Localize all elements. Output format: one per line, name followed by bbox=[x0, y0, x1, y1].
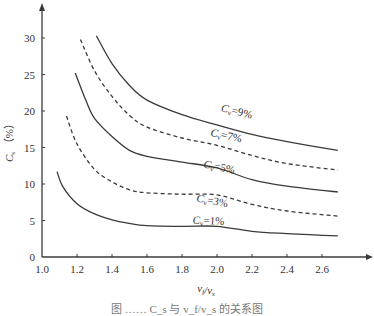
x-axis-title: vf/vs bbox=[197, 282, 215, 298]
x-tick-label: 2.2 bbox=[245, 263, 259, 275]
x-tick-label: 2.4 bbox=[280, 263, 294, 275]
y-tick-label: 0 bbox=[30, 251, 36, 263]
curve-cv7 bbox=[81, 40, 338, 171]
x-tick-label: 1.6 bbox=[140, 263, 154, 275]
curve-label: Cv=9% bbox=[220, 101, 254, 122]
y-tick-label: 15 bbox=[24, 142, 36, 154]
y-tick-label: 20 bbox=[24, 105, 36, 117]
x-tick-label: 2.6 bbox=[315, 263, 329, 275]
curve-label: Cv=7% bbox=[209, 126, 243, 146]
curve-label: Cv=3% bbox=[195, 192, 229, 211]
curves bbox=[57, 36, 338, 236]
y-tick-label: 5 bbox=[30, 215, 36, 227]
x-tick-label: 2.0 bbox=[210, 263, 224, 275]
y-tick-label: 30 bbox=[24, 32, 36, 44]
y-tick-label: 25 bbox=[24, 69, 36, 81]
x-tick-label: 1.8 bbox=[175, 263, 189, 275]
y-axis-title: Cs （%） bbox=[3, 118, 17, 162]
curve-cv5 bbox=[75, 73, 338, 192]
x-tick-label: 1.2 bbox=[70, 263, 84, 275]
figure-caption: 图 …… C_s 与 v_f/v_s 的关系图 bbox=[0, 300, 374, 316]
x-tick-label: 1.4 bbox=[105, 263, 119, 275]
x-tick-label: 1.0 bbox=[35, 263, 49, 275]
x-axis-arrow-icon bbox=[366, 254, 373, 260]
axes: 1.01.21.41.61.82.02.22.42.6051015202530v… bbox=[3, 3, 373, 298]
y-tick-label: 10 bbox=[24, 178, 36, 190]
y-axis-arrow-icon bbox=[39, 3, 45, 11]
curve-label: Cv=5% bbox=[202, 157, 236, 177]
